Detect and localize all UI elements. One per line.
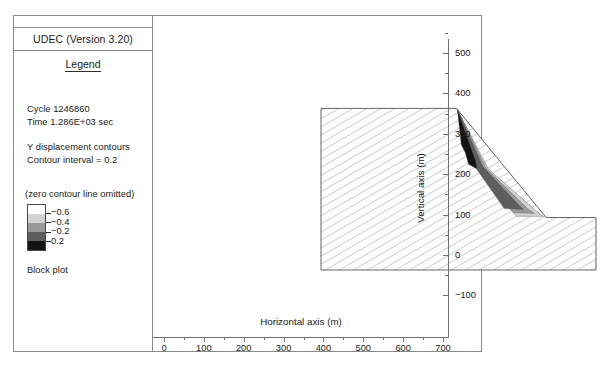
y-tick-label-300: 300: [455, 129, 471, 139]
x-tick-150: [224, 337, 225, 340]
x-tick-50: [184, 337, 185, 340]
legend-heading-text: Legend: [65, 58, 100, 72]
y-tick-300: [443, 134, 448, 135]
swatch-label-3: 0.2: [51, 236, 64, 246]
y-tick-0: [443, 255, 448, 256]
x-tick-550: [383, 337, 384, 340]
y-tick-350: [445, 114, 448, 115]
y-axis-line: [448, 39, 449, 338]
x-tick-label-200: 200: [236, 343, 252, 353]
swatch-band-1: [28, 214, 45, 223]
x-tick-0: [164, 337, 165, 342]
y-tick-400: [443, 93, 448, 94]
swatch-band-3: [28, 232, 45, 241]
x-tick-label-500: 500: [356, 343, 372, 353]
legend-contour-interval: Contour interval = 0.2: [27, 155, 117, 165]
y-tick-150: [445, 194, 448, 195]
y-tick-label-0: 0: [455, 250, 460, 260]
x-tick-500: [363, 337, 364, 342]
x-tick-450: [343, 337, 344, 340]
y-tick-450: [445, 73, 448, 74]
plot-area: [153, 15, 482, 352]
x-tick-700: [443, 337, 444, 342]
y-tick-label-400: 400: [455, 88, 471, 98]
legend-plot-type: Block plot: [27, 265, 68, 275]
y-tick-500: [443, 53, 448, 54]
window-title-box: UDEC (Version 3.20): [13, 27, 153, 51]
x-tick-300: [284, 337, 285, 342]
x-tick-650: [423, 337, 424, 340]
y-tick-250: [445, 154, 448, 155]
y-tick-200: [443, 174, 448, 175]
y-tick-50: [445, 235, 448, 236]
swatch-band-4: [28, 241, 45, 250]
x-tick-350: [304, 337, 305, 340]
x-tick-label-300: 300: [276, 343, 292, 353]
y-tick-label-200: 200: [455, 169, 471, 179]
x-tick-600: [403, 337, 404, 342]
x-tick-label-600: 600: [395, 343, 411, 353]
window-title: UDEC (Version 3.20): [33, 33, 133, 45]
swatch-band-0: [28, 205, 45, 214]
x-tick-100: [204, 337, 205, 342]
y-tick-100: [443, 215, 448, 216]
x-tick-200: [244, 337, 245, 342]
legend-cycle: Cycle 1246860: [27, 104, 90, 114]
y-axis-title: Vertical axis (m): [415, 153, 426, 223]
y-tick-label-100: 100: [455, 210, 471, 220]
legend-color-swatch: [27, 204, 46, 251]
x-tick-label-400: 400: [316, 343, 332, 353]
x-tick-400: [323, 337, 324, 342]
x-tick-label-100: 100: [196, 343, 212, 353]
y-tick--100: [443, 295, 448, 296]
x-axis-title: Horizontal axis (m): [153, 316, 449, 327]
legend-quantity: Y displacement contours: [27, 142, 130, 152]
x-axis-line: [153, 337, 449, 338]
legend-time: Time 1.286E+03 sec: [27, 117, 113, 127]
legend-zero-contour-note: (zero contour line omitted): [25, 189, 134, 199]
x-tick-250: [264, 337, 265, 340]
x-tick-label-0: 0: [161, 343, 166, 353]
y-tick-label-500: 500: [455, 48, 471, 58]
swatch-band-2: [28, 223, 45, 232]
y-tick-550: [445, 33, 448, 34]
y-tick--50: [445, 275, 448, 276]
y-tick-label--100: −100: [455, 290, 476, 300]
x-tick-label-700: 700: [435, 343, 451, 353]
legend-heading: Legend: [13, 58, 153, 70]
